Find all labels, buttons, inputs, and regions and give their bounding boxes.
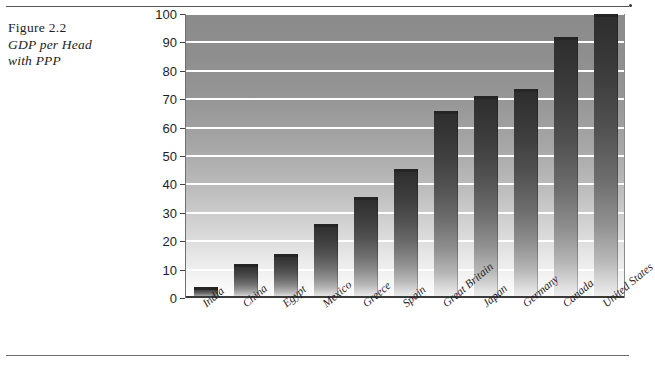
bar-cap — [594, 14, 619, 17]
bar-edge — [537, 89, 538, 298]
bar-cap — [394, 169, 419, 172]
bar-greece[interactable] — [354, 197, 379, 298]
plot-background — [185, 14, 625, 298]
chart-plot-area — [185, 14, 625, 298]
bar-cap — [354, 197, 379, 200]
bar-edge — [617, 14, 618, 298]
bar-cap — [274, 254, 299, 257]
bar-cap — [314, 224, 339, 227]
bar-canada[interactable] — [554, 37, 579, 298]
y-axis-label-30: 30 — [143, 205, 177, 220]
page-bottom-rule — [6, 355, 629, 356]
bar-great-britain[interactable] — [434, 111, 459, 298]
y-axis-label-50: 50 — [143, 149, 177, 164]
bar-spain[interactable] — [394, 169, 419, 298]
y-axis-tick-0 — [180, 298, 185, 299]
y-axis-label-70: 70 — [143, 92, 177, 107]
bar-edge — [457, 111, 458, 298]
bar-germany[interactable] — [514, 89, 539, 298]
bar-cap — [554, 37, 579, 40]
figure-caption: Figure 2.2 GDP per Head with PPP — [8, 20, 158, 70]
y-axis-label-60: 60 — [143, 120, 177, 135]
bar-cap — [474, 96, 499, 99]
y-axis-label-10: 10 — [143, 262, 177, 277]
y-axis-label-90: 90 — [143, 35, 177, 50]
bar-cap — [514, 89, 539, 92]
x-axis-labels: IndiaChinaEgyptMexicoGreeceSpainGreat Br… — [185, 300, 625, 360]
figure-number: Figure 2.2 — [8, 20, 158, 37]
y-axis-label-20: 20 — [143, 234, 177, 249]
bar-cap — [434, 111, 459, 114]
y-axis-label-80: 80 — [143, 63, 177, 78]
page-corner-dot — [629, 4, 632, 7]
y-axis-label-40: 40 — [143, 177, 177, 192]
bar-edge — [497, 96, 498, 298]
y-axis-label-0: 0 — [143, 291, 177, 306]
bar-cap — [234, 264, 259, 267]
figure-title-line-1: GDP per Head — [8, 37, 158, 54]
bar-united-states[interactable] — [594, 14, 619, 298]
figure-title-line-2: with PPP — [8, 53, 158, 70]
bar-series — [186, 14, 624, 298]
page-top-rule — [6, 6, 629, 7]
bar-edge — [577, 37, 578, 298]
y-axis-label-100: 100 — [143, 7, 177, 22]
bar-edge — [417, 169, 418, 298]
